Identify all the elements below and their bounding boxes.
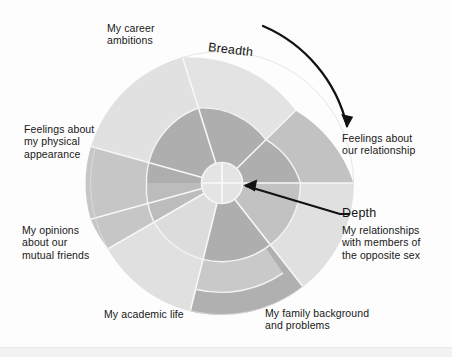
label-family-background: My family background and problems — [265, 307, 415, 332]
label-career-ambitions: My career ambitions — [107, 22, 207, 47]
bottom-divider — [0, 347, 452, 357]
figure-canvas: My career ambitions Breadth Feelings abo… — [0, 0, 452, 357]
label-feelings-relationship: Feelings about our relationship — [342, 132, 450, 157]
label-academic-life: My academic life — [104, 308, 244, 320]
label-mutual-friends: My opinions about our mutual friends — [22, 224, 127, 261]
label-opposite-sex: My relationships with members of the opp… — [342, 224, 452, 261]
label-depth: Depth — [342, 206, 376, 220]
wheel-sectors — [86, 52, 354, 316]
label-physical-appearance: Feelings about my physical appearance — [24, 123, 129, 160]
